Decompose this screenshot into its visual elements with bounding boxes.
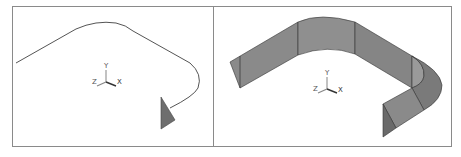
z-axis-icon [318,89,327,93]
x-axis-icon [327,89,337,93]
z-axis-label: Z [92,78,97,86]
y-axis-label: Y [324,69,330,77]
right-panel: Y X Z [230,17,442,137]
figure-canvas: Y X Z Y X Z [0,0,461,157]
x-axis-icon [106,82,116,86]
y-axis-label: Y [103,62,109,70]
z-axis-label: Z [313,85,318,93]
z-axis-icon [97,82,106,86]
left-panel: Y X Z [16,22,199,129]
axis-triad-left: Y X Z [92,62,122,86]
swept-surface-right-segment [355,22,412,88]
axis-triad-right: Y X Z [313,69,343,94]
profile-section [161,97,175,129]
swept-surface-top-arc [298,17,355,55]
x-axis-label: X [338,86,343,94]
x-axis-label: X [117,78,122,86]
